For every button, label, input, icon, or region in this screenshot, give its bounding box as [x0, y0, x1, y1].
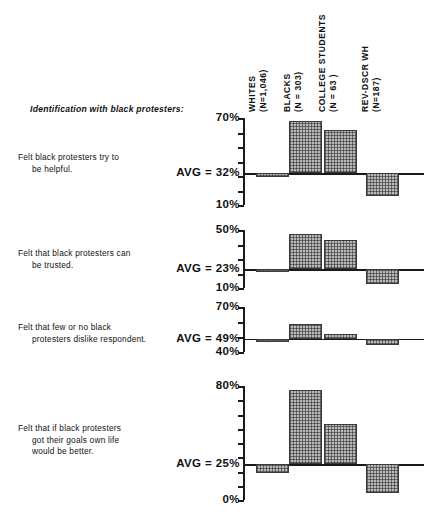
bar-goals-better-life-whites: [256, 464, 289, 473]
bar-goals-better-life-blacks: [289, 390, 322, 464]
plot-area-goals-better-life: 80%AVG = 25%0%: [243, 386, 424, 500]
panel-label-line: got their goals own life: [18, 435, 208, 447]
y-axis-tick: [238, 400, 244, 402]
average-label-goals-better-life: AVG = 25%: [176, 457, 243, 469]
bar-goals-better-life-college-students: [324, 424, 357, 464]
panel-label-line: would be better.: [18, 446, 208, 458]
y-axis-tick: [238, 415, 244, 417]
panel-label-line: Felt that if black protesters: [18, 423, 208, 435]
bar-goals-better-life-rev-dscr-wh: [366, 464, 399, 493]
y-axis-tick: [238, 472, 244, 474]
y-axis-label-top-goals-better-life: 80%: [216, 379, 243, 391]
panel-label-goals-better-life: Felt that if black protestersgot their g…: [18, 423, 208, 458]
y-axis-tick: [238, 486, 244, 488]
y-axis-tick: [238, 429, 244, 431]
chart-page: WHITES(N=1,046)BLACKS(N = 303)COLLEGE ST…: [0, 0, 429, 518]
y-axis-label-bottom-goals-better-life: 0%: [223, 493, 243, 505]
chart-panel-goals-better-life: Felt that if black protestersgot their g…: [0, 0, 429, 518]
y-axis-tick: [238, 443, 244, 445]
